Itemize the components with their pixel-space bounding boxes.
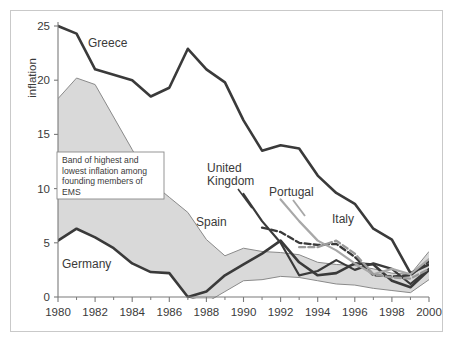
annotation-line-2: lowest inflation among: [62, 166, 147, 176]
y-tick-label: 15: [37, 128, 50, 140]
series-label-greece-text: Greece: [88, 36, 128, 50]
y-tick-label: 5: [44, 237, 50, 249]
series-label-uk-line1: United: [207, 161, 242, 175]
y-tick-label: 20: [37, 74, 50, 86]
x-tick-label: 1982: [82, 306, 108, 318]
series-label-spain-text: Spain: [196, 215, 227, 229]
annotation-callout: Band of highest and lowest inflation amo…: [57, 152, 164, 199]
series-label-spain: Spain: [196, 215, 227, 229]
y-tick-label: 0: [44, 291, 50, 303]
series-label-united-kingdom: United Kingdom: [207, 161, 254, 208]
series-label-germany: Germany: [62, 257, 111, 271]
x-tick-label: 1986: [157, 306, 183, 318]
x-tick-label: 1988: [194, 306, 220, 318]
annotation-line-3: founding members of: [62, 176, 143, 186]
y-tick-label: 10: [37, 183, 50, 195]
annotation-line-1: Band of highest and: [62, 155, 139, 165]
series-label-italy: Italy: [332, 212, 354, 226]
series-label-uk-line2: Kingdom: [207, 174, 254, 188]
annotation-line-4: EMS: [62, 187, 81, 197]
chart-figure: 0510152025198019821984198619881990199219…: [0, 0, 459, 345]
x-tick-label: 2000: [416, 306, 442, 318]
y-axis-title: inflation: [26, 58, 38, 98]
series-label-germany-text: Germany: [62, 257, 111, 271]
series-label-italy-text: Italy: [332, 212, 354, 226]
x-tick-label: 1994: [305, 306, 331, 318]
x-tick-label: 1984: [119, 306, 145, 318]
inflation-line-chart: 0510152025198019821984198619881990199219…: [0, 0, 459, 345]
y-tick-label: 25: [37, 20, 50, 32]
series-label-greece: Greece: [88, 36, 128, 50]
x-tick-label: 1990: [231, 306, 257, 318]
series-label-portugal-text: Portugal: [269, 185, 314, 199]
x-tick-label: 1992: [268, 306, 294, 318]
x-tick-label: 1996: [342, 306, 368, 318]
x-tick-label: 1980: [45, 306, 71, 318]
x-tick-label: 1998: [379, 306, 405, 318]
